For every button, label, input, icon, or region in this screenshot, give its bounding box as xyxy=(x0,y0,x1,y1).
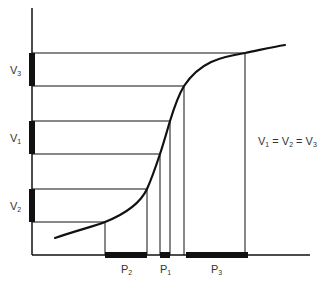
equal-volume-annotation: V1 = V2 = V3 xyxy=(258,136,317,148)
v1-interval-bar xyxy=(29,121,35,154)
label-p2: P2 xyxy=(121,264,132,276)
label-v1: V1 xyxy=(10,133,21,145)
label-p3: P3 xyxy=(211,264,222,276)
horizontal-projection-lines xyxy=(32,53,245,222)
v3-interval-bar xyxy=(29,53,35,86)
p3-interval-bar xyxy=(186,252,248,258)
label-p1: P1 xyxy=(160,264,171,276)
p1-interval-bar xyxy=(160,252,170,258)
p2-interval-bar xyxy=(105,252,147,258)
label-v3: V3 xyxy=(10,65,21,77)
label-v2: V2 xyxy=(10,201,21,213)
v2-interval-bar xyxy=(29,189,35,222)
